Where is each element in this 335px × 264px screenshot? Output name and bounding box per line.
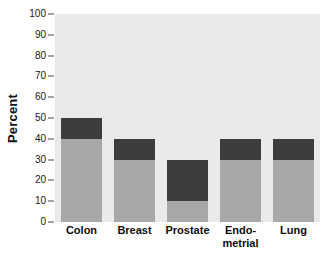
x-axis-tick-labels: ColonBreastProstateEndo-metrialLung — [55, 224, 320, 264]
bar-segment-upper — [273, 139, 314, 160]
bar-endo-metrial — [220, 139, 261, 222]
plot-area — [55, 14, 320, 222]
y-axis-tick-label: 80 — [35, 51, 46, 61]
y-axis-tick-label: 20 — [35, 175, 46, 185]
x-axis-label: Prostate — [161, 224, 214, 237]
y-axis-tick-label: 100 — [29, 9, 46, 19]
bar-prostate — [167, 160, 208, 222]
y-axis-tick-mark — [48, 97, 54, 98]
bar-breast — [114, 139, 155, 222]
y-axis-tick-label: 90 — [35, 30, 46, 40]
y-axis-tick-marks — [48, 14, 55, 222]
y-axis-tick-mark — [48, 34, 54, 35]
y-axis-tick-label: 30 — [35, 155, 46, 165]
bar-segment-lower — [61, 139, 102, 222]
bar-segment-upper — [114, 139, 155, 160]
bar-colon — [61, 118, 102, 222]
bar-segment-lower — [273, 160, 314, 222]
y-axis-tick-label: 0 — [40, 217, 46, 227]
bar-segment-lower — [220, 160, 261, 222]
stacked-bar-chart: Percent 0102030405060708090100 ColonBrea… — [0, 0, 335, 264]
y-axis-tick-mark — [48, 118, 54, 119]
x-axis-label-line: Prostate — [165, 224, 209, 236]
bar-segment-upper — [167, 160, 208, 202]
y-axis-tick-labels: 0102030405060708090100 — [22, 14, 46, 222]
y-axis-tick-mark — [48, 76, 54, 77]
y-axis-tick-mark — [48, 55, 54, 56]
x-axis-label-line: Lung — [280, 224, 307, 236]
y-axis-tick-mark — [48, 201, 54, 202]
x-axis-label: Endo-metrial — [214, 224, 267, 250]
y-axis-tick-label: 50 — [35, 113, 46, 123]
x-axis-label: Colon — [55, 224, 108, 237]
y-axis-tick-mark — [48, 222, 54, 223]
x-axis-label-line: Colon — [66, 224, 97, 236]
y-axis-tick-mark — [48, 159, 54, 160]
y-axis-title-text: Percent — [6, 93, 21, 142]
y-axis-tick-label: 40 — [35, 134, 46, 144]
bar-segment-upper — [220, 139, 261, 160]
y-axis-tick-label: 70 — [35, 71, 46, 81]
x-axis-label-line: Breast — [117, 224, 151, 236]
x-axis-label: Lung — [267, 224, 320, 237]
y-axis-tick-mark — [48, 14, 54, 15]
y-axis-tick-label: 10 — [35, 196, 46, 206]
bar-segment-lower — [167, 201, 208, 222]
y-axis-tick-mark — [48, 180, 54, 181]
y-axis-tick-label: 60 — [35, 92, 46, 102]
x-axis-label-line: Endo- — [225, 224, 256, 236]
bar-segment-upper — [61, 118, 102, 139]
bar-lung — [273, 139, 314, 222]
x-axis-label-line: metrial — [214, 237, 267, 250]
bar-segment-lower — [114, 160, 155, 222]
x-axis-label: Breast — [108, 224, 161, 237]
y-axis-tick-mark — [48, 138, 54, 139]
